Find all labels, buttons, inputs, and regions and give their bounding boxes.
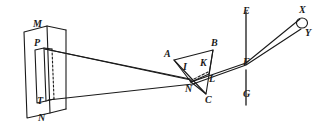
label-T: T [37, 96, 43, 106]
label-P: P [34, 38, 40, 48]
label-N-plate: N [38, 113, 45, 123]
plate-top-back-edge [47, 26, 66, 30]
label-I: I [183, 62, 187, 72]
label-N-prism: N [185, 84, 192, 94]
label-L: L [209, 74, 215, 84]
plate-hidden-edge [52, 49, 54, 99]
label-C: C [205, 95, 212, 105]
label-F: F [243, 57, 250, 67]
label-G: G [243, 89, 250, 99]
label-K: K [200, 58, 207, 68]
label-E: E [243, 6, 250, 16]
prism-face-BL [209, 50, 213, 74]
label-M: M [33, 19, 42, 29]
optics-diagram: M N P T A B C I K L N E F G X Y [0, 0, 323, 132]
plate-bottom-back-edge [50, 109, 66, 113]
label-B: B [211, 38, 218, 48]
label-A: A [164, 49, 171, 59]
diagram-canvas [0, 0, 323, 132]
label-X: X [299, 5, 306, 15]
label-Y: Y [305, 28, 311, 38]
beam-lower-ray [48, 84, 193, 100]
